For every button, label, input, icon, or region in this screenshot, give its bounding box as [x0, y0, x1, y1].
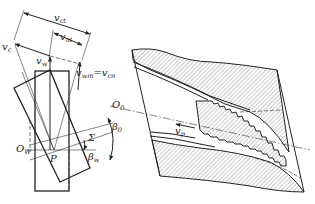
engagement-section: vp — [110, 49, 310, 192]
label-o-0: O0 — [112, 99, 124, 112]
label-v-nt: vnt — [60, 31, 73, 44]
label-v-wm-eq-v-cn: vwm=vcn — [76, 67, 115, 80]
label-v-p: vp — [175, 125, 186, 138]
label-v-w: vw — [36, 55, 48, 68]
workpiece-rect — [35, 71, 69, 191]
label-sigma: Σ — [87, 132, 96, 143]
label-beta-w: βw — [87, 151, 100, 164]
kinematics-figure: vct vnt vc vw vwm=vcn OW P Σ βw O0 β0 — [0, 0, 315, 204]
velocity-diagram: vct vnt vc vw vwm=vcn OW P Σ βw O0 β0 — [2, 10, 124, 191]
label-v-c: vc — [2, 41, 12, 54]
label-p: P — [49, 153, 57, 164]
